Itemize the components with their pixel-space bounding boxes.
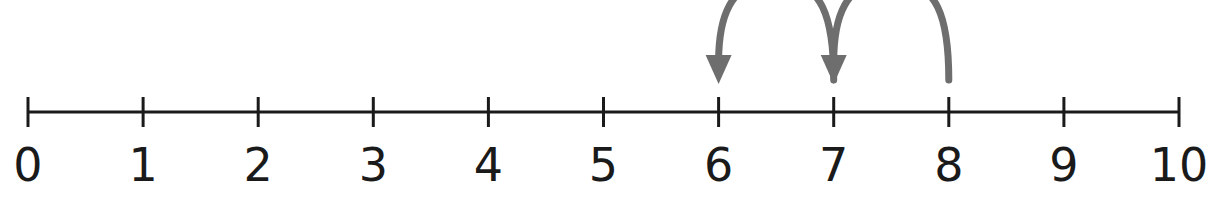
number-line-diagram: 012345678910 (0, 0, 1210, 212)
jump-arrow (821, 0, 949, 84)
tick-label: 0 (0, 140, 58, 190)
tick-label: 6 (689, 140, 749, 190)
tick-label: 9 (1034, 140, 1094, 190)
jump-arrow (706, 0, 834, 84)
arrowhead-icon (706, 55, 732, 84)
tick-label: 3 (343, 140, 403, 190)
jump-arrows (706, 0, 949, 84)
tick-label: 4 (458, 140, 518, 190)
tick-label: 8 (919, 140, 979, 190)
tick-label: 2 (228, 140, 288, 190)
tick-label: 5 (574, 140, 634, 190)
tick-label: 10 (1149, 140, 1209, 190)
tick-label: 1 (113, 140, 173, 190)
tick-label: 7 (804, 140, 864, 190)
